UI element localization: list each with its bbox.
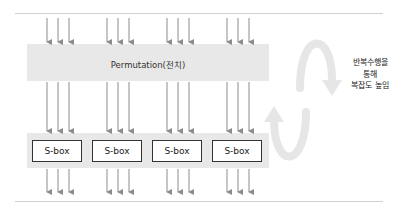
side-note-line-1: 반복수행을	[340, 57, 400, 69]
input-arrows	[47, 18, 249, 42]
output-arrows	[47, 169, 249, 192]
data-flow-arrows	[0, 0, 400, 212]
cycle-arrow-icon	[264, 43, 342, 156]
side-note-line-3: 복잡도 높임	[340, 80, 400, 92]
side-note: 반복수행을 통해 복잡도 높임	[340, 57, 400, 92]
side-note-line-2: 통해	[340, 69, 400, 81]
middle-arrows	[47, 82, 249, 131]
